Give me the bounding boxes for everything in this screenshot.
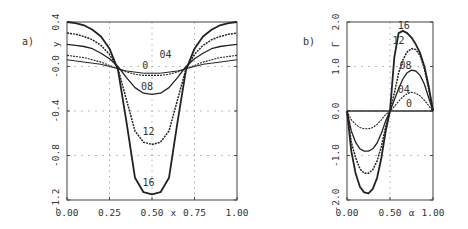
curve-label: 16	[398, 20, 410, 31]
figure: a)0.000.250.500.751.00x0.4-0.0-0.4-0.8-1…	[0, 0, 468, 229]
x-axis-label: x	[170, 207, 176, 218]
curve-label: 08	[141, 81, 153, 92]
x-tick-label: 1.00	[422, 207, 445, 218]
y-tick-label: -0.8	[50, 144, 61, 167]
x-tick-label: 0.75	[183, 207, 206, 218]
y-tick-label: 2.0	[330, 13, 341, 30]
curve-label: 12	[143, 126, 155, 137]
curve-label: 0	[142, 60, 148, 71]
panel-b-chart: b)0.000.501.00α2.01.00.0-1.0-2.0Γ1612080…	[303, 13, 445, 218]
series-line-1_6	[67, 22, 237, 194]
x-tick-label: 0.50	[141, 207, 164, 218]
curve-label: 04	[160, 49, 172, 60]
y-tick-label: 0.4	[50, 13, 61, 30]
y-axis-label: Γ	[330, 41, 341, 47]
panel-label: b)	[303, 36, 315, 47]
y-tick-label: 0.0	[330, 102, 341, 119]
y-tick-label: -1.0	[330, 144, 341, 167]
figure-svg: a)0.000.250.500.751.00x0.4-0.0-0.4-0.8-1…	[0, 0, 468, 229]
x-tick-label: 0.50	[379, 207, 402, 218]
y-tick-label: -1.2	[50, 189, 61, 212]
x-tick-label: 0.25	[98, 207, 121, 218]
curve-label: 04	[398, 84, 410, 95]
x-axis-label: α	[409, 207, 415, 218]
y-tick-label: -2.0	[330, 188, 341, 211]
curve-label: 12	[393, 35, 405, 46]
curve-label: 0	[406, 98, 412, 109]
panel-label: a)	[22, 36, 34, 47]
y-tick-label: -0.4	[50, 99, 61, 122]
curve-label: 08	[399, 60, 411, 71]
curve-label: 16	[143, 177, 155, 188]
y-tick-label: 1.0	[330, 58, 341, 75]
y-axis-label: y	[50, 41, 61, 47]
x-tick-label: 1.00	[226, 207, 249, 218]
panel-a-chart: a)0.000.250.500.751.00x0.4-0.0-0.4-0.8-1…	[22, 13, 249, 218]
y-tick-label: -0.0	[50, 55, 61, 78]
